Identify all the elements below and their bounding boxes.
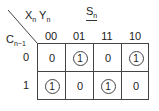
column-header: 00 [37,30,65,42]
column-header: 10 [121,30,149,42]
column-header: 01 [65,30,93,42]
row-header: 0 [20,51,32,63]
kmap-cell: 0 [122,72,150,100]
circled-one: 1 [129,51,144,66]
map-title: Sn [86,5,97,19]
column-variables-label: Xn Yn [25,10,50,25]
circled-one: 1 [101,79,116,94]
row-variable-label: Cn−1 [6,34,26,49]
column-header: 11 [93,30,121,42]
kmap-grid: 0 1 0 1 1 0 1 0 [37,43,149,100]
kmap-cell: 0 [66,72,94,100]
circled-one: 1 [45,79,60,94]
kmap-cell: 1 [38,72,66,100]
row-header: 1 [20,79,32,91]
kmap-cell: 1 [94,72,122,100]
kmap-cell: 1 [66,44,94,72]
kmap-cell: 0 [38,44,66,72]
kmap-cell: 0 [94,44,122,72]
circled-one: 1 [73,51,88,66]
kmap-cell: 1 [122,44,150,72]
